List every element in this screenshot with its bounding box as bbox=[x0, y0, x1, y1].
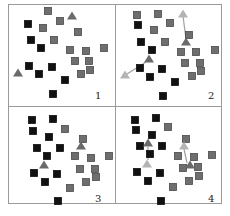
cluster-b-point bbox=[92, 166, 99, 173]
cluster-a-point bbox=[153, 115, 160, 122]
cluster-b-point bbox=[75, 29, 82, 36]
cluster-a-point bbox=[172, 79, 179, 86]
cluster-b-point bbox=[178, 49, 185, 56]
cluster-a-point bbox=[30, 128, 37, 135]
scatter-plots bbox=[0, 0, 230, 216]
cluster-b-point bbox=[198, 68, 205, 75]
panel-label-1: 1 bbox=[95, 90, 101, 101]
cluster-b-point bbox=[195, 164, 202, 171]
cluster-b-point bbox=[72, 58, 79, 65]
cluster-b-point bbox=[175, 153, 182, 160]
cluster-b-point bbox=[88, 155, 95, 162]
cluster-b-point bbox=[86, 58, 93, 65]
cluster-a-point bbox=[145, 178, 152, 185]
cluster-b-point bbox=[93, 174, 100, 181]
cluster-b-point bbox=[87, 67, 94, 74]
cluster-a-point bbox=[137, 143, 144, 150]
cluster-a-point bbox=[42, 179, 49, 186]
cluster-a-point bbox=[149, 132, 156, 139]
kmeans-diagram: 1 2 3 4 bbox=[0, 0, 230, 216]
cluster-a-point bbox=[50, 91, 57, 98]
cluster-b-point bbox=[209, 152, 216, 159]
cluster-b-point bbox=[197, 60, 204, 67]
cluster-a-point bbox=[147, 151, 154, 158]
cluster-a-point bbox=[135, 22, 142, 29]
cluster-a-point bbox=[137, 65, 144, 72]
centroid-marker bbox=[13, 69, 23, 77]
cluster-b-point bbox=[78, 71, 85, 78]
cluster-a-point bbox=[57, 145, 64, 152]
cluster-b-point bbox=[170, 184, 177, 191]
previous-centroid-marker bbox=[178, 10, 188, 18]
cluster-a-point bbox=[159, 143, 166, 150]
cluster-b-point bbox=[183, 136, 190, 143]
centroid-move-arrow bbox=[184, 149, 187, 163]
cluster-a-point bbox=[157, 170, 164, 177]
cluster-b-point bbox=[80, 136, 87, 143]
cluster-a-point bbox=[132, 117, 139, 124]
cluster-a-point bbox=[44, 153, 51, 160]
cluster-a-point bbox=[31, 170, 38, 177]
centroid-marker bbox=[143, 139, 153, 147]
cluster-b-point bbox=[196, 173, 203, 180]
previous-centroid-marker bbox=[142, 160, 152, 168]
cluster-b-point bbox=[83, 48, 90, 55]
cluster-b-point bbox=[45, 8, 52, 15]
cluster-b-point bbox=[67, 185, 74, 192]
cluster-b-point bbox=[182, 60, 189, 67]
cluster-b-point bbox=[162, 39, 169, 46]
previous-centroid-marker bbox=[120, 71, 130, 79]
cluster-a-point bbox=[54, 171, 61, 178]
cluster-b-point bbox=[212, 47, 219, 54]
cluster-b-point bbox=[151, 27, 158, 34]
cluster-b-point bbox=[72, 153, 79, 160]
cluster-b-point bbox=[167, 20, 174, 27]
centroid-marker bbox=[39, 161, 49, 169]
cluster-a-point bbox=[138, 39, 145, 46]
cluster-b-point bbox=[57, 18, 64, 25]
cluster-b-point bbox=[67, 47, 74, 54]
cluster-a-point bbox=[25, 21, 32, 28]
cluster-b-point bbox=[189, 73, 196, 80]
cluster-b-point bbox=[77, 166, 84, 173]
cluster-a-point bbox=[46, 134, 53, 141]
cluster-a-point bbox=[26, 63, 33, 70]
cluster-b-point bbox=[191, 154, 198, 161]
centroid-marker bbox=[67, 12, 77, 20]
centroid-marker bbox=[144, 55, 154, 63]
panel-label-3: 3 bbox=[95, 193, 101, 204]
cluster-a-point bbox=[28, 37, 35, 44]
cluster-b-point bbox=[83, 179, 90, 186]
cluster-b-point bbox=[193, 49, 200, 56]
cluster-b-point bbox=[165, 124, 172, 131]
cluster-b-point bbox=[101, 45, 108, 52]
cluster-a-point bbox=[158, 198, 165, 205]
cluster-a-point bbox=[147, 74, 154, 81]
cluster-b-point bbox=[155, 11, 162, 18]
panel-label-4: 4 bbox=[208, 193, 214, 204]
cluster-b-point bbox=[62, 126, 69, 133]
cluster-a-point bbox=[34, 145, 41, 152]
cluster-a-point bbox=[29, 117, 36, 124]
cluster-a-point bbox=[38, 45, 45, 52]
cluster-a-point bbox=[49, 64, 56, 71]
cluster-b-point bbox=[51, 37, 58, 44]
cluster-a-point bbox=[62, 77, 69, 84]
cluster-b-point bbox=[186, 32, 193, 39]
cluster-a-point bbox=[133, 127, 140, 134]
cluster-b-point bbox=[106, 153, 113, 160]
cluster-b-point bbox=[186, 178, 193, 185]
cluster-a-point bbox=[36, 71, 43, 78]
cluster-a-point bbox=[160, 93, 167, 100]
cluster-a-point bbox=[149, 47, 156, 54]
cluster-b-point bbox=[40, 25, 47, 32]
panel-label-2: 2 bbox=[208, 90, 214, 101]
cluster-a-point bbox=[50, 116, 57, 123]
cluster-a-point bbox=[134, 169, 141, 176]
cluster-a-point bbox=[159, 66, 166, 73]
cluster-a-point bbox=[55, 198, 62, 205]
cluster-b-point bbox=[134, 12, 141, 19]
